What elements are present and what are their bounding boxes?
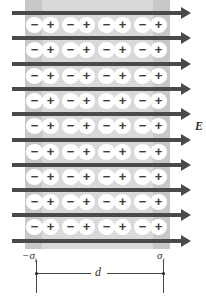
negative-sign-icon: − <box>62 219 79 235</box>
dipole: −+ <box>134 93 168 109</box>
field-arrow <box>12 87 182 91</box>
field-arrow <box>12 188 182 192</box>
arrowhead-icon <box>181 32 191 44</box>
arrowhead-icon <box>181 7 191 19</box>
negative-sign-icon: − <box>26 93 43 109</box>
left-dimension-line <box>36 260 37 293</box>
dipole: −+ <box>62 219 96 235</box>
dipole: −+ <box>26 42 60 58</box>
dipole: −+ <box>134 42 168 58</box>
positive-sign-icon: + <box>78 219 95 235</box>
negative-sign-icon: − <box>134 42 151 58</box>
arrowhead-icon <box>181 184 191 196</box>
positive-sign-icon: + <box>114 93 131 109</box>
positive-sign-icon: + <box>114 17 131 33</box>
right-dimension-line <box>163 260 164 293</box>
positive-sign-icon: + <box>150 42 167 58</box>
dipole: −+ <box>62 93 96 109</box>
negative-sign-icon: − <box>62 118 79 134</box>
arrowhead-icon <box>181 209 191 221</box>
positive-sign-icon: + <box>42 68 59 84</box>
thickness-label: d <box>95 265 101 280</box>
dipole: −+ <box>26 144 60 160</box>
dipole: −+ <box>26 17 60 33</box>
field-arrow <box>12 112 182 116</box>
positive-sign-icon: + <box>42 17 59 33</box>
right-dimension-tick <box>162 272 165 275</box>
positive-sign-icon: + <box>150 144 167 160</box>
negative-sign-icon: − <box>62 17 79 33</box>
negative-sign-icon: − <box>62 68 79 84</box>
field-arrow <box>12 239 182 243</box>
negative-sign-icon: − <box>134 144 151 160</box>
negative-sign-icon: − <box>26 118 43 134</box>
positive-sign-icon: + <box>42 219 59 235</box>
positive-sign-icon: + <box>78 42 95 58</box>
negative-sign-icon: − <box>26 219 43 235</box>
positive-sign-icon: + <box>78 93 95 109</box>
dipole: −+ <box>26 194 60 210</box>
positive-sign-icon: + <box>150 194 167 210</box>
field-arrow <box>12 163 182 167</box>
field-arrow <box>12 138 182 142</box>
dipole: −+ <box>62 144 96 160</box>
dipole: −+ <box>26 219 60 235</box>
negative-sign-icon: − <box>26 68 43 84</box>
negative-sign-icon: − <box>26 144 43 160</box>
positive-sign-icon: + <box>150 93 167 109</box>
dipole: −+ <box>134 219 168 235</box>
dipole: −+ <box>134 118 168 134</box>
negative-sign-icon: − <box>26 42 43 58</box>
positive-sign-icon: + <box>150 68 167 84</box>
negative-sign-icon: − <box>134 169 151 185</box>
negative-sign-icon: − <box>134 68 151 84</box>
dipole: −+ <box>134 169 168 185</box>
positive-sign-icon: + <box>78 194 95 210</box>
positive-sign-icon: + <box>42 144 59 160</box>
dielectric-diagram: −+−+−+−+−+−+−+−+−+−+−+−+−+−+−+−+−+−+−+−+… <box>0 0 206 301</box>
dipole: −+ <box>62 68 96 84</box>
negative-sign-icon: − <box>98 144 115 160</box>
dipole: −+ <box>134 68 168 84</box>
dipole: −+ <box>98 93 132 109</box>
dipole: −+ <box>62 42 96 58</box>
dipole: −+ <box>62 118 96 134</box>
dipole: −+ <box>26 93 60 109</box>
positive-sign-icon: + <box>42 118 59 134</box>
positive-sign-icon: + <box>114 42 131 58</box>
field-arrow <box>12 11 182 15</box>
positive-sign-icon: + <box>42 169 59 185</box>
dipole: −+ <box>98 42 132 58</box>
negative-sign-icon: − <box>98 42 115 58</box>
negative-sign-icon: − <box>98 169 115 185</box>
dipole: −+ <box>98 118 132 134</box>
dipole: −+ <box>98 17 132 33</box>
negative-sign-icon: − <box>98 68 115 84</box>
negative-sign-icon: − <box>62 93 79 109</box>
negative-sign-icon: − <box>98 219 115 235</box>
negative-sign-icon: − <box>134 219 151 235</box>
field-arrow <box>12 213 182 217</box>
negative-sign-icon: − <box>98 118 115 134</box>
negative-sign-icon: − <box>62 194 79 210</box>
dimension-line-left-segment <box>37 273 91 274</box>
positive-sign-icon: + <box>150 169 167 185</box>
dipole: −+ <box>98 144 132 160</box>
arrowhead-icon <box>181 159 191 171</box>
positive-sign-icon: + <box>114 144 131 160</box>
dipole: −+ <box>98 194 132 210</box>
positive-sign-icon: + <box>78 17 95 33</box>
negative-sign-icon: − <box>134 194 151 210</box>
dipole: −+ <box>26 68 60 84</box>
dimension-line-right-segment <box>107 273 163 274</box>
dipole: −+ <box>26 118 60 134</box>
positive-sign-icon: + <box>78 118 95 134</box>
dipole: −+ <box>98 68 132 84</box>
positive-sign-icon: + <box>150 17 167 33</box>
positive-sign-icon: + <box>114 219 131 235</box>
dipole: −+ <box>134 194 168 210</box>
positive-sign-icon: + <box>114 194 131 210</box>
negative-sign-icon: − <box>26 169 43 185</box>
positive-sign-icon: + <box>78 144 95 160</box>
positive-sign-icon: + <box>114 169 131 185</box>
